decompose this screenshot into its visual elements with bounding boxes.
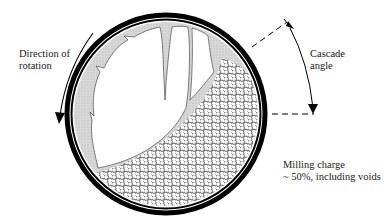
arrowhead-up-icon <box>286 21 294 29</box>
cascade-label-line2: angle <box>310 60 333 71</box>
arrowhead-down-icon <box>55 112 65 124</box>
charge-label-line2: ~ 50%, including voids <box>283 171 381 182</box>
rotation-label-line2: rotation <box>19 60 52 71</box>
rotation-label-line1: Direction of <box>19 48 71 59</box>
ball-mill-diagram: Direction of rotation Cascade angle Mill… <box>0 0 392 223</box>
cascade-label-line1: Cascade <box>310 48 345 59</box>
arrowhead-down-icon <box>308 104 318 114</box>
charge-label-line1: Milling charge <box>283 159 345 170</box>
